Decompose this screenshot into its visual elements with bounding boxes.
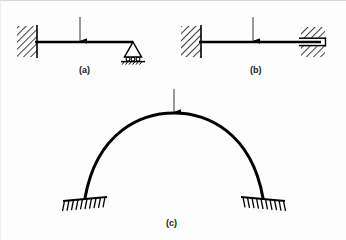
panel-a-caption: (a)	[79, 65, 90, 75]
slider-block-lower	[301, 46, 325, 57]
diagram-canvas	[1, 1, 346, 240]
roller-wheel	[126, 57, 130, 61]
fixed-support-a-left	[17, 25, 37, 58]
arch-rib	[85, 113, 263, 198]
roller-wheel	[131, 57, 135, 61]
roller-wheel	[136, 57, 140, 61]
structural-diagram-figure: (a) (b) (c)	[0, 0, 346, 240]
wall-hatching	[181, 26, 201, 57]
panel-b-caption: (b)	[250, 65, 262, 75]
arch-support-c-right	[241, 197, 286, 211]
panel-b	[181, 17, 326, 58]
roller-triangle	[125, 42, 142, 57]
slider-block-upper	[301, 27, 325, 38]
panel-c-caption: (c)	[166, 218, 177, 228]
fixed-support-b-left	[181, 25, 201, 58]
panel-c	[63, 89, 286, 211]
arch-support-c-left	[63, 197, 108, 211]
panel-a	[17, 17, 145, 65]
wall-hatching	[17, 26, 37, 57]
roller-support-a-right	[121, 42, 145, 65]
